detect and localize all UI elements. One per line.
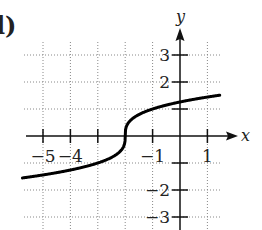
y-tick-label: −3 [145,207,170,227]
x-tick-label: −5 [30,146,55,166]
function-graph: l) y x −5−4−11 32−2−3 [0,0,262,230]
y-axis-label: y [175,7,186,26]
axes [26,28,238,230]
x-tick-label: −4 [58,146,83,166]
y-tick-label: 2 [159,72,170,92]
x-tick-label: 1 [202,146,213,166]
panel-label: l) [0,11,16,40]
x-tick-label: −1 [140,146,165,166]
y-tick-label: 3 [159,45,170,65]
x-axis-label: x [241,126,250,145]
y-tick-label: −2 [145,180,170,200]
